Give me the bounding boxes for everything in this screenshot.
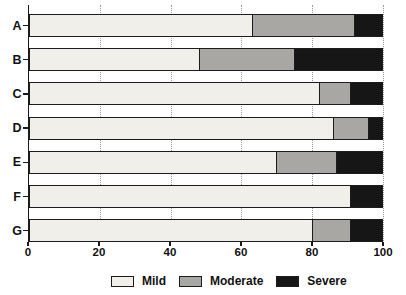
y-axis-tick [23,127,28,129]
legend-label-mild: Mild [142,274,166,288]
bar-segment-moderate [252,15,354,36]
bar-row-F [29,185,383,208]
bar-segment-mild [30,83,319,104]
legend-item-severe: Severe [276,274,346,288]
bar-row-A [29,14,383,37]
legend-swatch-severe [276,276,299,287]
x-tick-label-80: 80 [306,246,319,258]
y-axis-tick [23,93,28,95]
y-axis-tick [23,59,28,61]
bar-segment-mild [30,186,350,207]
bar-segment-moderate [276,152,336,173]
bar-segment-mild [30,15,252,36]
bar-segment-mild [30,220,312,241]
bar-row-D [29,117,383,140]
y-axis-tick [23,230,28,232]
x-tick-label-100: 100 [373,246,392,258]
legend-swatch-mild [111,276,134,287]
bar-segment-mild [30,118,333,139]
x-tick-label-0: 0 [25,246,31,258]
y-axis-tick [23,25,28,27]
bar-segment-severe [350,186,382,207]
x-tick-label-60: 60 [235,246,248,258]
bar-segment-severe [354,15,382,36]
x-tick-label-20: 20 [93,246,106,258]
bar-segment-moderate [333,118,368,139]
bar-row-G [29,219,383,242]
stacked-bar-chart: ABCDEFG 020406080100 MildModerateSevere [0,0,406,295]
legend-swatch-moderate [179,276,202,287]
legend-item-moderate: Moderate [179,274,263,288]
bar-row-B [29,48,383,71]
legend-label-severe: Severe [307,274,346,288]
y-axis-tick [23,196,28,198]
y-axis-tick [23,162,28,164]
bar-segment-moderate [312,220,351,241]
bar-segment-moderate [199,49,294,70]
legend: MildModerateSevere [111,274,347,288]
gridline [383,5,384,241]
legend-item-mild: Mild [111,274,166,288]
bar-row-E [29,151,383,174]
bar-segment-severe [294,49,382,70]
bar-segment-severe [350,220,382,241]
bar-segment-severe [336,152,382,173]
x-tick-label-40: 40 [164,246,177,258]
bar-row-C [29,82,383,105]
legend-label-moderate: Moderate [210,274,263,288]
bar-segment-mild [30,152,276,173]
bar-segment-mild [30,49,199,70]
bar-segment-moderate [319,83,351,104]
bar-segment-severe [368,118,382,139]
plot-area [28,5,383,242]
bar-segment-severe [350,83,382,104]
